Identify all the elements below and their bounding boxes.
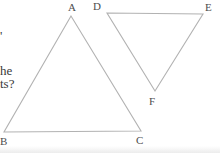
vertex-label-C: C bbox=[136, 134, 143, 147]
vertex-label-E: E bbox=[205, 1, 212, 14]
cutoff-text-fragment-2: ts? bbox=[0, 77, 14, 91]
triangle-ABC bbox=[4, 16, 141, 132]
triangles-diagram-canvas bbox=[0, 0, 220, 153]
vertex-label-B: B bbox=[0, 135, 7, 148]
vertex-label-D: D bbox=[93, 0, 101, 13]
vertex-label-F: F bbox=[149, 95, 155, 108]
triangle-DEF bbox=[107, 13, 203, 91]
vertex-label-A: A bbox=[68, 1, 76, 14]
scanned-figure-page: ABCDEF 'hets? bbox=[0, 0, 220, 153]
cutoff-text-fragment-0: ' bbox=[0, 29, 2, 43]
